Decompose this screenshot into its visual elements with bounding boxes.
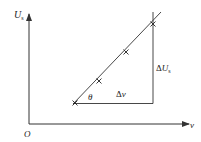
data-point-marker-icon — [124, 50, 129, 55]
origin-label: O — [24, 129, 31, 139]
theta-label: θ — [88, 92, 93, 102]
x-axis-label: v — [190, 120, 194, 130]
us-vs-v-diagram: Us v O θ Δv ΔUs — [0, 0, 201, 142]
data-point-marker-icon — [73, 101, 78, 106]
delta-us-label: ΔUs — [156, 63, 171, 74]
delta-v-label: Δv — [116, 89, 126, 99]
data-point-marker-icon — [97, 79, 102, 84]
y-axis-label: Us — [14, 9, 24, 21]
